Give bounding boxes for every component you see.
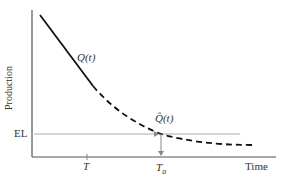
ta-label: Ta <box>156 161 166 176</box>
el-label: EL <box>14 127 27 139</box>
arrowhead-icon <box>158 151 164 156</box>
x-axis-label: Time <box>245 160 268 172</box>
ta-sub: a <box>162 167 166 176</box>
q-hat-label: Q̂(t) <box>155 112 173 124</box>
arrowhead-right-icon <box>154 131 159 137</box>
q-label: Q(t) <box>77 51 95 63</box>
production-decline-diagram <box>0 0 286 182</box>
y-axis-label: Production <box>3 66 14 110</box>
t-label: T <box>83 160 89 172</box>
